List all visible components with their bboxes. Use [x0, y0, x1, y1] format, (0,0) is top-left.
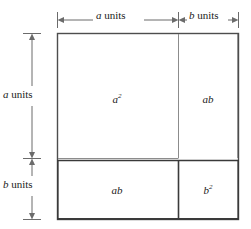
cell-label-ab-top-right: ab: [203, 94, 214, 105]
dimension-unit-left-b: units: [9, 178, 33, 190]
dimension-label-top-a: a units: [96, 10, 126, 21]
top-arrowhead-b-right: [232, 17, 239, 23]
top-arrowhead-b-left: [179, 17, 186, 23]
left-arrowhead-b-top: [29, 159, 35, 166]
left-dimension-group: [23, 34, 41, 220]
cell-label-b-squared: b2: [204, 185, 213, 196]
dimension-unit-top-a: units: [102, 9, 126, 21]
top-arrowhead-a-left: [58, 17, 65, 23]
cell-label-a-squared: a2: [113, 94, 122, 105]
cell-exponent-b-squared: 2: [209, 183, 213, 191]
left-arrowhead-b-bottom: [29, 213, 35, 220]
left-arrowhead-a-bottom: [29, 152, 35, 159]
cell-base-ab-top-right: ab: [203, 93, 214, 105]
diagram-canvas: [0, 0, 251, 229]
cell-label-ab-bottom-left: ab: [112, 185, 123, 196]
algebra-square-diagram: a units b units a units b units a2 ab ab…: [0, 0, 251, 229]
dimension-label-top-b: b units: [189, 10, 219, 21]
dimension-unit-top-b: units: [195, 9, 219, 21]
dimension-label-left-b: b units: [3, 179, 33, 190]
top-arrowhead-a-right: [172, 17, 179, 23]
dimension-unit-left-a: units: [9, 88, 33, 100]
left-arrowhead-a-top: [29, 34, 35, 41]
dimension-label-left-a: a units: [3, 89, 33, 100]
cell-exponent-a-squared: 2: [118, 92, 122, 100]
cell-base-ab-bottom-left: ab: [112, 184, 123, 196]
